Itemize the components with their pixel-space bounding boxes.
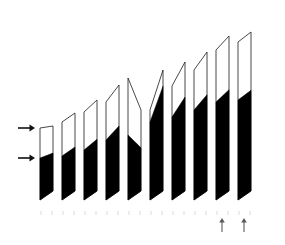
bar-group-3 <box>84 100 97 200</box>
left-arrow-marker-2 <box>18 154 35 161</box>
bar-group-10 <box>238 32 251 200</box>
figure-root <box>0 0 285 245</box>
bar-fill-1 <box>40 153 53 200</box>
bar-chart <box>0 0 285 245</box>
bottom-arrow-marker-3 <box>219 218 225 232</box>
arrow-head <box>241 218 247 223</box>
bar-group-9 <box>216 36 229 200</box>
bar-fill-10 <box>238 90 251 200</box>
bar-fill-3 <box>84 139 97 200</box>
bar-group-7 <box>172 62 185 200</box>
arrow-head <box>30 154 36 161</box>
arrow-head <box>30 124 36 131</box>
bar-fill-9 <box>216 90 229 200</box>
bar-group-6 <box>150 70 163 200</box>
bar-fill-2 <box>62 147 75 200</box>
arrow-head <box>219 218 225 223</box>
bar-group-4 <box>106 85 119 200</box>
bars-layer <box>40 32 251 200</box>
left-arrow-marker-1 <box>18 124 35 131</box>
bar-group-8 <box>194 52 207 200</box>
bar-group-2 <box>62 113 75 200</box>
bar-group-5 <box>128 78 141 200</box>
axis-ticks-layer <box>41 211 250 215</box>
bar-group-1 <box>40 126 53 200</box>
bar-fill-8 <box>194 95 207 200</box>
bottom-arrow-marker-4 <box>241 218 247 232</box>
